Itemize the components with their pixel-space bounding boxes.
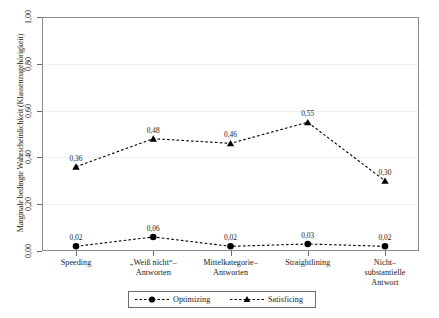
y-tick-label: 0,60 xyxy=(24,104,34,118)
x-category-label: „Weiß nicht“– Antworten xyxy=(130,258,177,278)
chart-figure: Marginale bedingte Wahrscheinlichkeit (K… xyxy=(0,0,439,318)
x-category-label: Nicht– substantielle Antwort xyxy=(365,258,406,287)
data-point-label: 0,30 xyxy=(379,168,392,177)
gridline xyxy=(43,157,418,158)
data-point-label: 0,36 xyxy=(70,154,83,163)
x-tick-mark xyxy=(308,251,309,256)
x-tick-mark xyxy=(153,251,154,256)
gridline xyxy=(43,64,418,65)
data-point-label: 0,46 xyxy=(224,130,237,139)
data-point-label: 0,02 xyxy=(224,233,237,242)
y-tick-label: 1,00 xyxy=(24,10,34,24)
y-tick-label: 0,00 xyxy=(24,244,34,258)
data-point-label: 0,02 xyxy=(70,233,83,242)
data-point-label: 0,55 xyxy=(301,109,314,118)
legend-entry-optimizing[interactable]: Optimizing xyxy=(135,292,210,307)
y-tick-mark xyxy=(37,251,42,252)
x-tick-mark xyxy=(385,251,386,256)
x-category-label: Speeding xyxy=(61,258,91,268)
data-point-label: 0,48 xyxy=(147,126,160,135)
x-tick-mark xyxy=(76,251,77,256)
legend-entry-satisficing[interactable]: Satisficing xyxy=(230,292,303,307)
legend-marker-circle-icon xyxy=(135,294,169,305)
y-tick-label: 0,40 xyxy=(24,150,34,164)
x-tick-mark xyxy=(231,251,232,256)
x-category-label: Mittelkategorie– Antworten xyxy=(203,258,258,278)
legend[interactable]: Optimizing Satisficing xyxy=(128,291,316,308)
data-point-label: 0,03 xyxy=(301,231,314,240)
legend-marker-triangle-icon xyxy=(230,294,264,305)
data-point-label: 0,02 xyxy=(379,233,392,242)
y-tick-label: 0,80 xyxy=(24,57,34,71)
data-point-label: 0,06 xyxy=(147,224,160,233)
y-axis-title: Marginale bedingte Wahrscheinlichkeit (K… xyxy=(14,8,28,258)
gridline xyxy=(43,204,418,205)
legend-label-optimizing: Optimizing xyxy=(173,295,210,304)
legend-label-satisficing: Satisficing xyxy=(268,295,303,304)
x-category-label: Straightlining xyxy=(285,258,330,268)
y-tick-label: 0,20 xyxy=(24,197,34,211)
gridline xyxy=(43,111,418,112)
